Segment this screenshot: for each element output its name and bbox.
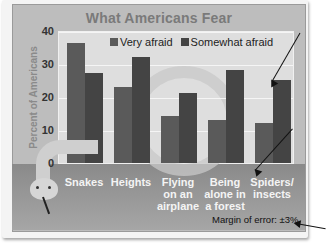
legend-item-very-afraid: Very afraid xyxy=(110,36,173,48)
category-label-line: a forest xyxy=(195,200,255,212)
bar-somewhat-afraid xyxy=(273,80,291,163)
bar-somewhat-afraid xyxy=(179,93,197,163)
legend-swatch-very-afraid xyxy=(110,38,118,46)
legend-swatch-somewhat-afraid xyxy=(181,38,189,46)
bar-somewhat-afraid xyxy=(226,70,244,163)
legend-label-somewhat-afraid: Somewhat afraid xyxy=(191,36,274,48)
bar-very-afraid xyxy=(208,120,226,163)
margin-of-error-note: Margin of error: ±3% xyxy=(212,214,299,225)
ytick-0: 0 xyxy=(32,157,54,169)
legend: Very afraid Somewhat afraid xyxy=(110,36,273,48)
legend-item-somewhat-afraid: Somewhat afraid xyxy=(181,36,274,48)
bar-very-afraid xyxy=(255,123,273,163)
bar-somewhat-afraid xyxy=(132,57,150,163)
snake-eye-icon xyxy=(48,186,51,189)
arrowhead-icon xyxy=(293,219,301,228)
bar-very-afraid xyxy=(161,116,179,163)
chart-title: What Americans Fear xyxy=(13,10,305,26)
ytick-40: 40 xyxy=(32,25,54,37)
legend-label-very-afraid: Very afraid xyxy=(120,36,173,48)
snake-eye-icon xyxy=(36,186,39,189)
gridline-30 xyxy=(59,65,293,66)
category-label: Spiders/insects xyxy=(242,176,302,200)
y-axis-label: Percent of Americans xyxy=(28,43,39,153)
category-label-line: Spiders/ xyxy=(242,176,302,188)
category-label-line: insects xyxy=(242,188,302,200)
bar-very-afraid xyxy=(114,87,132,163)
gridline-40 xyxy=(59,32,293,33)
